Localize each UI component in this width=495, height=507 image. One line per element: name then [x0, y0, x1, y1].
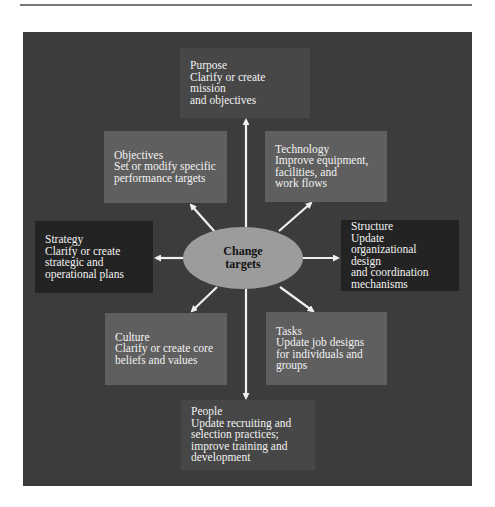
target-line: strategic and [45, 257, 143, 269]
target-line: development [191, 452, 305, 464]
target-strategy: Strategy Clarify or create strategic and… [35, 221, 153, 293]
target-objectives: Objectives Set or modify specific perfor… [104, 131, 227, 203]
target-line: operational plans [45, 269, 143, 281]
target-title: Strategy [45, 234, 143, 246]
target-line: Improve equipment, [275, 155, 377, 167]
target-line: Update job designs [276, 337, 377, 349]
target-line: work flows [275, 178, 377, 190]
target-line: mechanisms [351, 279, 449, 291]
target-purpose: Purpose Clarify or create mission and ob… [180, 48, 310, 118]
target-line: and objectives [190, 95, 300, 107]
target-people: People Update recruiting and selection p… [181, 400, 315, 470]
target-structure: Structure Update organizational design a… [341, 220, 459, 291]
target-title: Structure [351, 221, 449, 233]
target-line: groups [276, 360, 377, 372]
arrow-objectives [191, 205, 215, 232]
target-line: organizational design [351, 244, 449, 267]
target-technology: Technology Improve equipment, facilities… [265, 131, 387, 202]
arrow-culture [192, 287, 217, 311]
arrow-technology [279, 203, 311, 231]
target-title: Purpose [190, 60, 300, 72]
change-targets-hub: Change targets [183, 227, 303, 289]
target-line: and coordination [351, 267, 449, 279]
arrow-tasks [280, 287, 313, 311]
target-culture: Culture Clarify or create core beliefs a… [105, 313, 227, 385]
hub-label-line2: targets [225, 258, 260, 271]
target-line: performance targets [114, 173, 217, 185]
target-line: Clarify or create mission [190, 72, 300, 95]
target-tasks: Tasks Update job designs for individuals… [266, 312, 387, 385]
target-line: beliefs and values [115, 355, 217, 367]
